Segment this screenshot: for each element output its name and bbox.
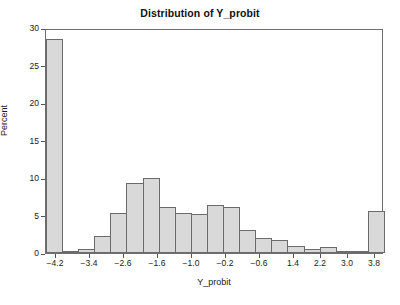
histogram-bar [352,251,369,253]
chart-title: Distribution of Y_probit [0,7,400,19]
histogram-bar [78,249,95,254]
x-tick-label: −4.2 [47,258,64,269]
histogram-bar [175,213,192,253]
x-tick-label: −0.2 [217,258,234,269]
histogram-bar [62,251,79,253]
histogram-bar [239,230,256,253]
histogram-bar [191,214,208,253]
histogram-chart: Distribution of Y_probit 051015202530 Pe… [0,0,400,305]
histogram-bar [110,213,127,253]
y-tick-label: 25 [30,61,39,72]
x-tick-label: 3.0 [341,258,353,269]
histogram-bar [46,39,63,254]
x-tick-label: −2.6 [115,258,132,269]
x-tick-label: −3.4 [81,258,98,269]
histogram-bar [255,238,272,253]
x-tick-label: −1.6 [149,258,166,269]
histogram-bar [287,246,304,253]
histogram-bar [336,251,353,253]
y-tick-label: 5 [34,211,39,222]
y-tick-label: 0 [34,248,39,259]
bar-series [46,30,382,253]
histogram-bar [320,247,337,253]
y-tick-label: 10 [30,173,39,184]
y-axis-label: Percent [0,105,9,136]
histogram-bar [207,205,224,253]
x-axis-label: Y_probit [45,277,383,287]
y-axis: 051015202530 Percent [0,29,45,254]
histogram-bar [304,249,321,253]
y-tick-label: 20 [30,98,39,109]
histogram-bar [223,207,240,253]
y-tick-label: 30 [30,23,39,34]
plot-area [45,29,383,254]
y-tick-label: 15 [30,136,39,147]
histogram-bar [271,240,288,254]
x-axis: −4.2−3.4−2.6−1.6−1.0−0.2−0.61.42.23.03.8 [45,254,383,294]
x-tick-label: 3.8 [368,258,380,269]
histogram-bar [94,236,111,253]
x-tick-label: −1.0 [183,258,200,269]
histogram-bar [159,207,176,253]
x-tick-label: −0.6 [251,258,268,269]
histogram-bar [368,211,385,253]
x-tick-label: 2.2 [314,258,326,269]
histogram-bar [126,183,143,253]
histogram-bar [143,178,160,253]
x-tick-label: 1.4 [287,258,299,269]
